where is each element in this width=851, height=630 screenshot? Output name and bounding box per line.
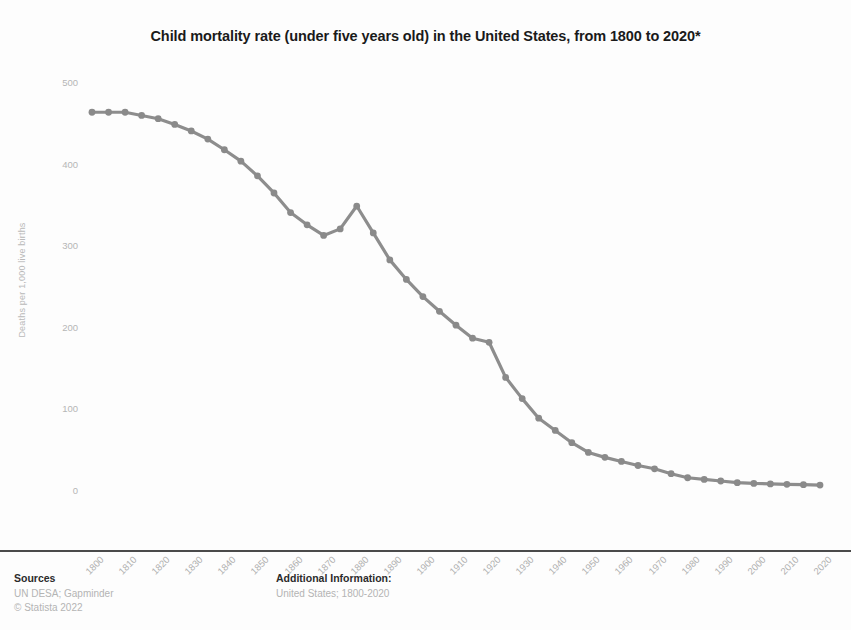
- series-point: [287, 209, 294, 216]
- series-point: [353, 203, 360, 210]
- series-point: [618, 458, 625, 465]
- series-point: [469, 335, 476, 342]
- series-point: [204, 136, 211, 143]
- series-point: [502, 374, 509, 381]
- series-point: [453, 322, 460, 329]
- footer-sources: Sources UN DESA; Gapminder © Statista 20…: [14, 572, 113, 615]
- series-point: [138, 112, 145, 119]
- series-point: [238, 158, 245, 165]
- series-points: [89, 109, 824, 489]
- series-point: [668, 470, 675, 477]
- series-point: [271, 190, 278, 197]
- series-graphic: [0, 60, 851, 620]
- series-point: [122, 109, 129, 116]
- footer-sources-line-2: © Statista 2022: [14, 601, 113, 615]
- footer-sources-heading: Sources: [14, 572, 113, 584]
- x-axis-line: [0, 550, 851, 552]
- series-point: [784, 481, 791, 488]
- series-point: [171, 121, 178, 128]
- series-point: [188, 128, 195, 135]
- series-point: [320, 232, 327, 239]
- series-point: [436, 308, 443, 315]
- footer-additional-line-1: United States; 1800-2020: [276, 587, 392, 601]
- footer: Sources UN DESA; Gapminder © Statista 20…: [0, 566, 851, 630]
- series-point: [304, 221, 311, 228]
- series-point: [420, 293, 427, 300]
- series-point: [552, 427, 559, 434]
- page-title: Child mortality rate (under five years o…: [0, 28, 851, 44]
- series-point: [386, 256, 393, 263]
- series-point: [105, 109, 112, 116]
- footer-additional-heading: Additional Information:: [276, 572, 392, 584]
- series-point: [635, 462, 642, 469]
- series-point: [89, 109, 96, 116]
- series-point: [568, 439, 575, 446]
- chart-page: Child mortality rate (under five years o…: [0, 0, 851, 630]
- series-point: [717, 478, 724, 485]
- series-point: [585, 449, 592, 456]
- series-point: [734, 479, 741, 486]
- footer-sources-line-1: UN DESA; Gapminder: [14, 587, 113, 601]
- series-line: [92, 112, 820, 485]
- series-point: [602, 454, 609, 461]
- series-point: [486, 339, 493, 346]
- series-point: [800, 481, 807, 488]
- series-point: [651, 465, 658, 472]
- series-point: [519, 395, 526, 402]
- series-point: [221, 146, 228, 153]
- footer-additional-info: Additional Information: United States; 1…: [276, 572, 392, 601]
- series-point: [535, 415, 542, 422]
- series-point: [767, 480, 774, 487]
- series-point: [684, 474, 691, 481]
- series-point: [817, 482, 824, 489]
- series-point: [403, 276, 410, 283]
- series-point: [337, 225, 344, 232]
- series-point: [370, 230, 377, 237]
- series-point: [155, 115, 162, 122]
- series-point: [254, 172, 261, 179]
- series-point: [701, 476, 708, 483]
- plot-area: Deaths per 1,000 live births 50040030020…: [0, 60, 851, 500]
- series-point: [750, 480, 757, 487]
